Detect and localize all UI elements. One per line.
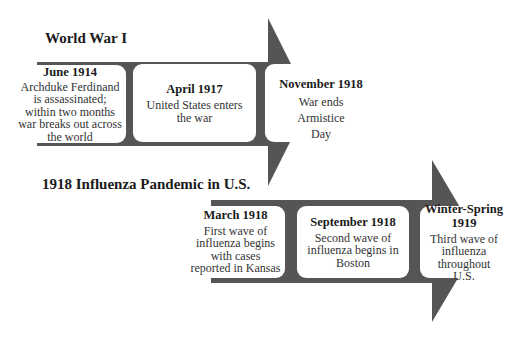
event-box-september-1918: September 1918 Second wave of influenza … [297,206,409,278]
event-date: March 1918 [204,208,268,222]
timeline-title-world-war-i: World War I [45,30,127,47]
event-description: Second wave of influenza begins in Bosto… [305,232,401,270]
event-description: First wave of influenza begins with case… [190,225,282,275]
timeline-title-influenza: 1918 Influenza Pandemic in U.S. [42,176,250,193]
event-box-winter-spring-1919: Winter-Spring 1919 Third wave of influen… [420,206,508,278]
event-box-june-1914: June 1914 Archduke Ferdinand is assassin… [14,64,126,144]
event-description: War ends Armistice Day [286,94,356,142]
event-description: United States enters the war [145,99,245,124]
event-date: September 1918 [310,215,396,229]
arrow-world-war-i [0,0,525,342]
event-date: November 1918 [279,77,362,91]
event-date: Winter-Spring 1919 [424,202,504,230]
event-date: June 1914 [43,65,97,79]
event-box-november-1918: November 1918 War ends Armistice Day [265,64,377,142]
event-box-march-1918: March 1918 First wave of influenza begin… [186,204,285,278]
event-description: Third wave of influenza throughout U.S. [426,233,502,283]
event-box-april-1917: April 1917 United States enters the war [133,64,256,142]
event-description: Archduke Ferdinand is assassinated; with… [18,81,122,144]
event-date: April 1917 [166,82,223,96]
